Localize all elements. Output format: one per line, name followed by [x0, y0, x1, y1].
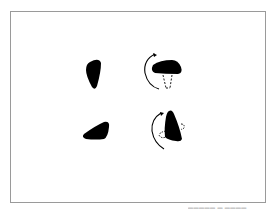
shape-bottom-left [83, 122, 109, 140]
dashed-hidden-edge [163, 75, 172, 88]
rotation-arrow-icon [152, 113, 164, 149]
shape-top-left [86, 60, 101, 89]
figure-caption: ▬▬▬▬▬ ▬ ▬▬▬▬ [188, 204, 272, 210]
figure-canvas [0, 0, 275, 211]
dashed-hidden-edge [181, 124, 184, 129]
shape-top-right [145, 53, 182, 89]
shape-bottom-right [152, 110, 184, 149]
